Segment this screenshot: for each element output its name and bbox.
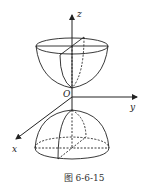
origin-label: O [63, 89, 71, 99]
figure-diagram: z O y x [0, 0, 150, 194]
z-axis-label: z [76, 9, 82, 19]
lower-paraboloid [35, 110, 109, 159]
figure-caption: 图 6-6-15 [0, 171, 150, 184]
x-axis-label: x [12, 144, 17, 154]
x-axis [16, 97, 72, 139]
y-axis-label: y [129, 102, 136, 112]
